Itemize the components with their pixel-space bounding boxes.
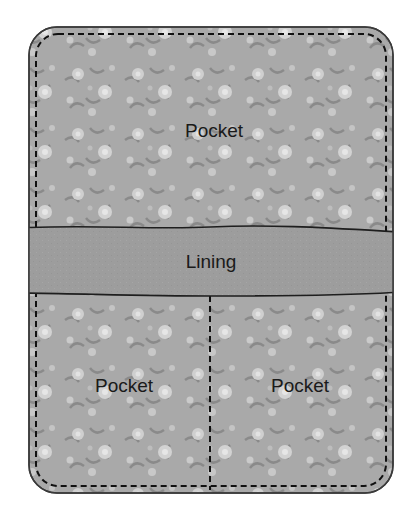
pocket-lining-diagram: Pocket Lining Pocket Pocket xyxy=(0,0,418,532)
bottom-left-pocket-label: Pocket xyxy=(95,375,154,396)
top-pocket-label: Pocket xyxy=(185,120,244,141)
lining-label: Lining xyxy=(186,251,237,272)
bottom-right-pocket-label: Pocket xyxy=(271,375,330,396)
